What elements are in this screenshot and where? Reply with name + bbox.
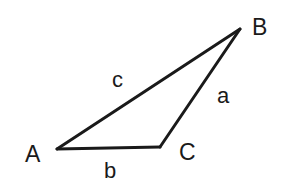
side-c-line <box>57 29 240 149</box>
triangle-diagram: A B C a b c <box>0 0 289 188</box>
vertex-label-b: B <box>252 14 267 40</box>
side-label-b: b <box>104 158 116 183</box>
side-label-a: a <box>217 83 230 108</box>
triangle-edges <box>57 29 240 149</box>
vertex-label-a: A <box>25 141 41 167</box>
side-label-c: c <box>112 67 123 92</box>
vertex-label-c: C <box>179 139 196 165</box>
side-b-line <box>57 147 160 149</box>
